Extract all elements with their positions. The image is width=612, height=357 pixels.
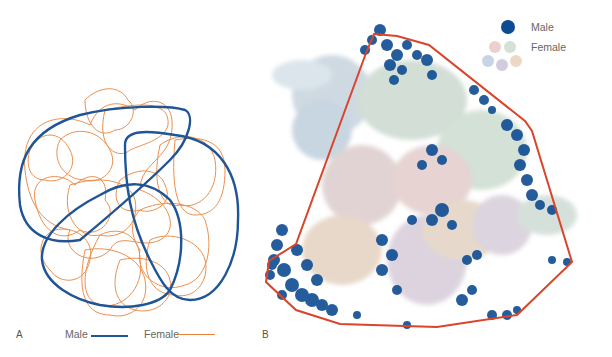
legend-female-label: Female — [144, 328, 179, 340]
legend-female-line — [178, 334, 215, 335]
legend-male-marker — [501, 20, 515, 34]
loops-plot — [0, 0, 262, 357]
legend-male-line — [91, 335, 128, 337]
legend-b-male-label: Male — [531, 21, 554, 33]
legend-b-female-label: Female — [531, 41, 566, 53]
legend-b — [482, 20, 522, 71]
panel-b: Male Female B — [262, 0, 612, 357]
panel-a-label: A — [16, 329, 23, 340]
scatter-plot — [262, 0, 612, 357]
legend-male-label: Male — [65, 328, 88, 340]
panel-b-label: B — [262, 329, 269, 340]
panel-a: A Male Female — [0, 0, 262, 357]
